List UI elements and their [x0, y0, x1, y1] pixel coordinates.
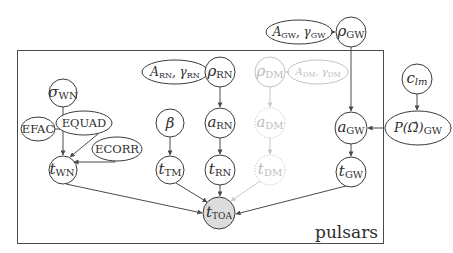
node-p-omega-gw: P(Ω̂)GW	[385, 111, 451, 145]
node-a-gw-gamma-gw: AGW, γGW	[266, 20, 332, 44]
node-a-rn: aRN	[205, 108, 235, 138]
node-a-rn-gamma-rn: ARN, γRN	[142, 60, 208, 84]
edge-t-gw-to-t-toa	[236, 186, 346, 214]
node-a-gw: aGW	[335, 112, 367, 144]
node-t-rn: tRN	[205, 155, 235, 185]
node-equad: EQUAD	[56, 111, 112, 135]
plate-label: pulsars	[315, 222, 378, 242]
node-a-dm-gamma-dm: ADM, γDM	[288, 60, 348, 84]
node-t-dm: tDM	[255, 155, 285, 185]
node-efac: EFAC	[21, 117, 55, 141]
svg-text:EQUAD: EQUAD	[62, 116, 107, 130]
edge-ecorr-to-t-wn	[74, 161, 115, 162]
node-t-gw: tGW	[336, 157, 366, 187]
edge-t-tm-to-t-toa	[176, 183, 207, 202]
svg-text:β: β	[165, 114, 175, 132]
node-a-dm: aDM	[255, 108, 285, 138]
node-rho-rn: ρRN	[205, 57, 235, 87]
node-t-tm: tTM	[156, 156, 184, 184]
node-sigma-wn: σWN	[48, 79, 78, 107]
svg-text:ECORR: ECORR	[95, 142, 139, 156]
svg-text:EFAC: EFAC	[22, 122, 55, 136]
node-c-lm: clm	[402, 64, 432, 94]
node-rho-dm: ρDM	[255, 57, 285, 87]
node-beta: β	[156, 109, 184, 137]
node-t-toa: tTOA	[203, 197, 235, 229]
edge-t-dm-to-t-toa	[231, 181, 260, 201]
node-rho-gw: ρGW	[336, 17, 366, 47]
node-ecorr: ECORR	[92, 137, 142, 161]
graphical-model-diagram: pulsars σWN EFAC EQUAD E	[0, 0, 453, 253]
edge-t-wn-to-t-toa	[66, 184, 202, 213]
node-t-wn: tWN	[49, 156, 77, 184]
